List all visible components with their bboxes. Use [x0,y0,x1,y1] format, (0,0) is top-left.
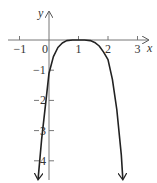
y-tick-label: −1 [33,63,46,77]
chart: −10123 −1234 x y [0,0,157,183]
data-curve [38,40,123,179]
x-axis-label: x [146,41,153,55]
x-tick-label: −1 [14,42,27,56]
y-ticks: −1234 [33,63,54,168]
x-tick-label: 3 [135,42,141,56]
x-tick-label: 1 [76,42,82,56]
x-ticks: −10123 [14,36,141,56]
y-axis-label: y [37,6,44,20]
x-tick-label: 2 [105,42,111,56]
x-tick-label: 0 [42,42,48,56]
